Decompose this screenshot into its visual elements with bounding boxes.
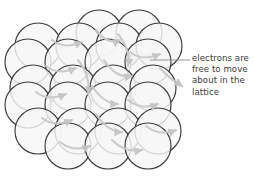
metal-ion — [125, 123, 171, 169]
metal-ion — [85, 123, 131, 169]
annotation-line-3: about in the — [192, 75, 254, 86]
annotation-line-1: electrons are — [192, 53, 254, 64]
lattice-diagram: electrons are free to move about in the … — [0, 0, 254, 179]
annotation-line-4: lattice — [192, 87, 254, 98]
annotation-line-2: free to move — [192, 64, 254, 75]
annotation-label: electrons are free to move about in the … — [192, 53, 254, 98]
